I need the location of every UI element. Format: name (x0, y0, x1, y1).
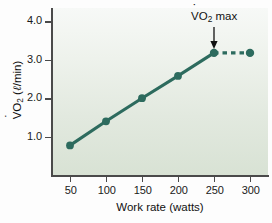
y-axis-tick-label: 2.0 (27, 91, 42, 103)
x-axis-tick-label: 200 (170, 184, 188, 196)
vo2-work-rate-chart: 1.0 2.0 3.0 4.0 50 100 150 200 250 300 W… (0, 0, 272, 223)
x-axis-tick-label: 250 (206, 184, 224, 196)
y-axis-tick-label: 4.0 (27, 14, 42, 26)
y-axis-tick: 4.0 (45, 21, 52, 22)
x-axis-tick-label: 100 (98, 184, 116, 196)
y-axis-tick: 1.0 (45, 137, 52, 138)
v-dot-glyph: V (11, 112, 23, 120)
x-axis-tick: 300 (250, 176, 251, 182)
y-axis-title-unit-rest: /min) (11, 61, 23, 87)
annotation-rest: max (212, 10, 237, 22)
plot-area (52, 8, 268, 175)
y-axis-tick-label: 3.0 (27, 53, 42, 65)
x-axis-tick: 100 (106, 176, 107, 182)
y-axis-title-o: O (11, 103, 23, 112)
v-dot-glyph: V (191, 10, 199, 22)
x-axis-tick: 50 (70, 176, 71, 182)
x-axis-tick-label: 50 (65, 184, 77, 196)
litre-glyph: ℓ (11, 86, 23, 91)
y-axis-title-subscript: 2 (16, 98, 25, 103)
y-axis-line (51, 8, 53, 176)
x-axis-tick-label: 150 (134, 184, 152, 196)
x-axis-tick: 150 (142, 176, 143, 182)
x-axis-title: Work rate (watts) (52, 201, 268, 213)
y-axis-title: VO2 (ℓ/min) (11, 35, 25, 145)
y-axis-tick-label: 1.0 (27, 130, 42, 142)
x-axis-tick: 200 (178, 176, 179, 182)
vo2-max-annotation: VO2 max (191, 10, 237, 24)
y-axis-tick: 2.0 (45, 98, 52, 99)
x-axis-tick: 250 (214, 176, 215, 182)
x-axis-tick-label: 300 (242, 184, 260, 196)
x-axis-line (51, 175, 269, 177)
y-axis-tick: 3.0 (45, 60, 52, 61)
annotation-o: O (199, 10, 208, 22)
y-axis-title-unit-open: ( (11, 91, 23, 98)
